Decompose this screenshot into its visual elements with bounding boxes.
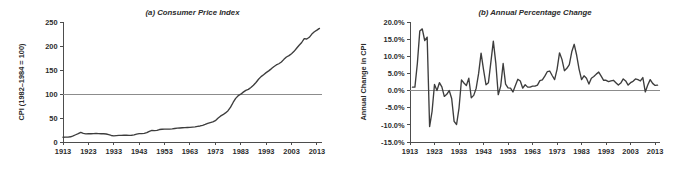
y-axis-title: CPI (1982–1984 = 100) [17, 43, 26, 121]
y-tick-label: 0.0% [388, 86, 405, 95]
chart-title: (a) Consumer Price Index [145, 8, 240, 17]
chart-svg-b: (b) Annual Percentage Change-15.0%-10.0%… [338, 0, 676, 171]
x-tick-label: 1993 [598, 147, 614, 156]
x-tick-label: 1913 [55, 147, 71, 156]
y-tick-label: 250 [45, 18, 57, 27]
y-tick-label: 200 [45, 42, 57, 51]
x-tick-label: 2013 [309, 147, 325, 156]
x-tick-label: 2003 [283, 147, 299, 156]
cpi-figure: (a) Consumer Price Index0501001502002501… [0, 0, 676, 171]
x-tick-label: 1933 [451, 147, 467, 156]
x-tick-label: 1953 [500, 147, 516, 156]
x-tick-label: 1973 [207, 147, 223, 156]
x-tick-label: 1933 [106, 147, 122, 156]
chart-panel-annual-percentage-change: (b) Annual Percentage Change-15.0%-10.0%… [338, 0, 676, 171]
x-tick-label: 1983 [573, 147, 589, 156]
y-tick-label: -15.0% [381, 138, 405, 147]
chart-panel-consumer-price-index: (a) Consumer Price Index0501001502002501… [0, 0, 338, 171]
y-tick-label: 5.0% [388, 69, 405, 78]
y-tick-label: -10.0% [381, 121, 405, 130]
x-tick-label: 1983 [233, 147, 249, 156]
y-axis-title: Annual Change in CPI [359, 43, 368, 120]
data-series-line [412, 29, 657, 127]
y-tick-label: 10.0% [384, 52, 405, 61]
x-tick-label: 1993 [258, 147, 274, 156]
y-tick-label: 100 [45, 90, 57, 99]
y-tick-label: -5.0% [385, 103, 405, 112]
data-series-line [63, 28, 319, 137]
y-tick-label: 0 [53, 138, 57, 147]
x-tick-label: 1943 [131, 147, 147, 156]
x-tick-label: 1923 [80, 147, 96, 156]
x-tick-label: 1953 [156, 147, 172, 156]
y-tick-label: 50 [49, 114, 57, 123]
x-tick-label: 1913 [402, 147, 418, 156]
chart-svg-a: (a) Consumer Price Index0501001502002501… [0, 0, 338, 171]
y-tick-label: 20.0% [384, 18, 405, 27]
x-tick-label: 1923 [426, 147, 442, 156]
x-tick-label: 1943 [475, 147, 491, 156]
x-tick-label: 1973 [549, 147, 565, 156]
y-tick-label: 150 [45, 66, 57, 75]
x-tick-label: 1963 [182, 147, 198, 156]
x-tick-label: 2013 [647, 147, 663, 156]
x-tick-label: 1963 [524, 147, 540, 156]
chart-title: (b) Annual Percentage Change [478, 8, 592, 17]
y-tick-label: 15.0% [384, 35, 405, 44]
x-tick-label: 2003 [622, 147, 638, 156]
